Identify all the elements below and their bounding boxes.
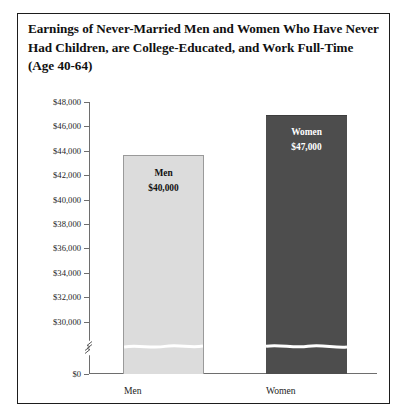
x-tick-label-men: Men [124,385,142,396]
bar-women[interactable]: Women $47,000 Women [266,115,347,374]
y-tick-0 [84,374,89,375]
y-tick-label-38000: $38,000 [53,219,81,229]
y-tick-42000 [84,175,89,176]
y-tick-label-0: $0 [72,369,81,379]
bar-women-label-group: Women $47,000 [266,125,347,154]
bar-men-top-edge [124,155,203,156]
y-tick-36000 [84,248,89,249]
bar-men-label-group: Men $40,000 [124,166,203,195]
y-tick-label-30000: $30,000 [53,317,81,327]
bar-men-category-label: Men [124,166,203,181]
bar-women-break-band [266,336,347,343]
y-axis-line [89,102,90,374]
chart-title: Earnings of Never-Married Men and Women … [28,20,380,76]
y-tick-label-32000: $32,000 [53,292,81,302]
y-tick-label-36000: $36,000 [53,243,81,253]
y-tick-48000 [84,102,89,103]
y-tick-label-42000: $42,000 [53,170,81,180]
y-tick-label-40000: $40,000 [53,195,81,205]
plot-area: $48,000 $46,000 $44,000 $42,000 $40,000 … [89,102,377,374]
chart-figure: Earnings of Never-Married Men and Women … [17,13,390,404]
y-tick-30000 [84,322,89,323]
y-tick-label-46000: $46,000 [53,121,81,131]
y-tick-34000 [84,273,89,274]
y-tick-label-48000: $48,000 [53,97,81,107]
axis-break-icon [83,341,96,356]
bar-women-value-label: $47,000 [266,140,347,155]
bar-men[interactable]: Men $40,000 Men [123,155,204,374]
y-tick-46000 [84,126,89,127]
y-tick-40000 [84,200,89,201]
y-tick-label-44000: $44,000 [53,146,81,156]
y-tick-label-34000: $34,000 [53,268,81,278]
y-tick-32000 [84,297,89,298]
bar-women-category-label: Women [266,125,347,140]
y-tick-38000 [84,224,89,225]
y-tick-44000 [84,151,89,152]
bar-men-value-label: $40,000 [124,181,203,196]
bar-men-break-band [124,336,203,343]
bar-women-top-edge [266,115,347,116]
x-tick-label-women: Women [266,385,296,396]
